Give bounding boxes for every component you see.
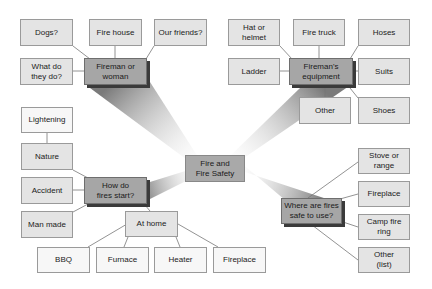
node-our-friends: Our friends? xyxy=(154,19,207,46)
node-heater: Heater xyxy=(154,247,207,273)
node-what-do-they-do: What do they do? xyxy=(20,58,73,85)
node-shoes: Shoes xyxy=(358,97,410,124)
node-other-list: Other (list) xyxy=(358,247,410,273)
beam-fireman xyxy=(90,82,200,162)
node-other-equipment: Other xyxy=(299,97,351,124)
hub-how-do-fires-start: How do fires start? xyxy=(84,177,147,204)
node-lightening: Lightening xyxy=(21,107,73,133)
node-fireplace-home: Fireplace xyxy=(213,247,266,273)
node-man-made: Man made xyxy=(21,211,73,238)
node-at-home: At home xyxy=(125,211,178,237)
node-fire-house: Fire house xyxy=(89,19,142,46)
node-hoses: Hoses xyxy=(358,19,410,46)
node-bbq: BBQ xyxy=(37,247,90,273)
node-nature: Nature xyxy=(21,143,73,170)
node-hat-or-helmet: Hat or helmet xyxy=(228,19,280,46)
node-dogs: Dogs? xyxy=(20,19,73,46)
hub-where-are-fires-safe: Where are fires safe to use? xyxy=(281,198,342,224)
node-furnace: Furnace xyxy=(96,247,149,273)
node-camp-fire-ring: Camp fire ring xyxy=(358,214,410,240)
hub-firemans-equipment: Fireman's equipment xyxy=(289,58,353,85)
node-stove-or-range: Stove or range xyxy=(358,148,410,174)
center-fire-and-fire-safety: Fire and Fire Safety xyxy=(185,155,245,182)
node-ladder: Ladder xyxy=(228,58,280,85)
hub-fireman-or-woman: Fireman or woman xyxy=(84,58,147,85)
node-fire-truck: Fire truck xyxy=(293,19,345,46)
node-accident: Accident xyxy=(21,177,73,204)
concept-map-canvas: Dogs? Fire house Our friends? What do th… xyxy=(0,0,432,289)
node-fireplace-safe: Fireplace xyxy=(358,181,410,207)
node-suits: Suits xyxy=(358,58,410,85)
